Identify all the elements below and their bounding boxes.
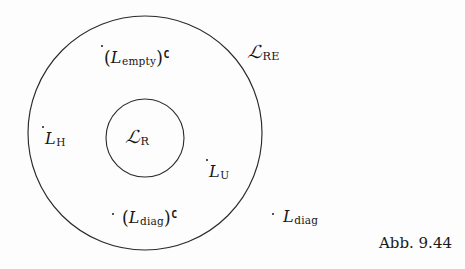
point-label-l-diag: Ldiag <box>283 209 318 226</box>
superscript-complement: C <box>163 50 169 60</box>
close-paren: ) <box>164 208 171 227</box>
subscript-diag: diag <box>139 216 163 227</box>
math-variable-l: L <box>209 162 220 181</box>
script-l-glyph: ℒ <box>125 128 143 146</box>
open-paren: ( <box>122 208 129 227</box>
superscript-complement: C <box>171 210 177 220</box>
set-label-l-r: ℒR <box>126 129 149 148</box>
script-l-glyph: ℒ <box>247 43 265 61</box>
point-label-l-diag-complement: (Ldiag)C <box>122 209 177 227</box>
figure-venn-language-classes: (Lempty)C ℒRE LH ℒR LU (Ldiag)C Ldiag Ab… <box>0 0 465 269</box>
point-label-l-u: LU <box>209 164 229 181</box>
set-label-l-re: ℒRE <box>248 44 280 63</box>
close-paren: ) <box>156 48 163 67</box>
subscript-u: U <box>220 170 230 181</box>
figure-caption: Abb. 9.44 <box>379 236 452 251</box>
venn-diagram-canvas <box>0 0 465 269</box>
open-paren: ( <box>104 48 111 67</box>
subscript-empty: empty <box>121 56 156 67</box>
math-variable-l: L <box>111 48 122 67</box>
math-variable-l: L <box>129 208 140 227</box>
math-variable-l: L <box>283 207 294 226</box>
math-variable-l: L <box>45 129 56 148</box>
subscript-h: H <box>56 137 66 148</box>
point-label-l-empty-complement: (Lempty)C <box>104 49 169 67</box>
subscript-diag: diag <box>294 215 318 226</box>
subscript-re: RE <box>262 51 280 62</box>
point-label-l-h: LH <box>45 131 66 148</box>
